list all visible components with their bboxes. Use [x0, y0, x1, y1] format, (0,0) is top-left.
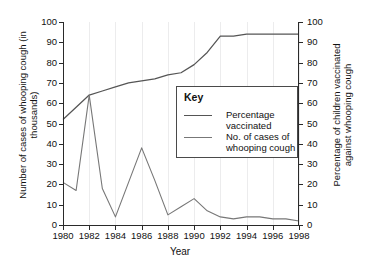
axis-tick-mark	[299, 42, 303, 43]
x-axis-line	[63, 225, 299, 226]
y-axis-left-line	[63, 22, 64, 226]
axis-tick-mark	[299, 226, 300, 230]
axis-tick-label: 10	[307, 199, 333, 210]
legend-swatch-vaccination	[184, 115, 212, 116]
axis-tick-mark	[59, 205, 63, 206]
axis-tick-mark	[273, 226, 274, 230]
axis-tick-mark	[142, 226, 143, 230]
axis-tick-mark	[220, 226, 221, 230]
axis-tick-mark	[115, 226, 116, 230]
axis-tick-label: 40	[307, 138, 333, 149]
axis-tick-label: 100	[31, 16, 57, 27]
axis-tick-mark	[63, 226, 64, 230]
axis-tick-mark	[59, 184, 63, 185]
axis-tick-label: 90	[307, 36, 333, 47]
legend-label-cases: No. of cases of whooping cough	[226, 131, 304, 153]
axis-tick-label: 80	[31, 57, 57, 68]
axis-tick-label: 90	[31, 36, 57, 47]
legend-label-vaccination: Percentage vaccinated	[226, 109, 304, 131]
axis-tick-mark	[299, 63, 303, 64]
axis-tick-mark	[299, 205, 303, 206]
y-axis-right-title: Percentage of children vaccinated agains…	[331, 30, 353, 200]
axis-tick-mark	[59, 144, 63, 145]
axis-tick-mark	[59, 83, 63, 84]
axis-tick-label: 20	[307, 178, 333, 189]
axis-tick-label: 50	[307, 118, 333, 129]
axis-tick-label: 0	[307, 219, 333, 230]
axis-tick-label: 60	[307, 97, 333, 108]
axis-tick-label: 10	[31, 199, 57, 210]
axis-tick-label: 70	[31, 77, 57, 88]
axis-tick-mark	[299, 83, 303, 84]
axis-tick-mark	[247, 226, 248, 230]
axis-tick-mark	[59, 164, 63, 165]
legend-swatch-cases	[184, 137, 212, 138]
legend-title: Key	[184, 91, 203, 103]
axis-tick-label: 50	[31, 118, 57, 129]
axis-tick-mark	[59, 63, 63, 64]
axis-tick-mark	[299, 103, 303, 104]
axis-tick-label: 40	[31, 138, 57, 149]
axis-tick-mark	[59, 103, 63, 104]
x-axis-title: Year	[60, 246, 300, 257]
axis-tick-mark	[299, 164, 303, 165]
axis-tick-label: 1998	[282, 230, 316, 241]
whooping-cough-chart: Number of cases of whooping cough (in th…	[0, 0, 367, 263]
axis-tick-mark	[299, 184, 303, 185]
axis-tick-mark	[89, 226, 90, 230]
axis-tick-label: 30	[307, 158, 333, 169]
axis-tick-mark	[59, 42, 63, 43]
axis-tick-mark	[59, 22, 63, 23]
axis-tick-label: 30	[31, 158, 57, 169]
axis-tick-label: 80	[307, 57, 333, 68]
axis-tick-mark	[59, 124, 63, 125]
axis-tick-mark	[168, 226, 169, 230]
y-axis-left-title: Number of cases of whooping cough (in th…	[17, 30, 39, 200]
axis-tick-mark	[299, 22, 303, 23]
axis-tick-label: 0	[31, 219, 57, 230]
axis-tick-label: 60	[31, 97, 57, 108]
axis-tick-label: 70	[307, 77, 333, 88]
legend-key: Key Percentage vaccinated No. of cases o…	[176, 86, 298, 158]
axis-tick-label: 20	[31, 178, 57, 189]
axis-tick-label: 100	[307, 16, 333, 27]
axis-tick-mark	[194, 226, 195, 230]
